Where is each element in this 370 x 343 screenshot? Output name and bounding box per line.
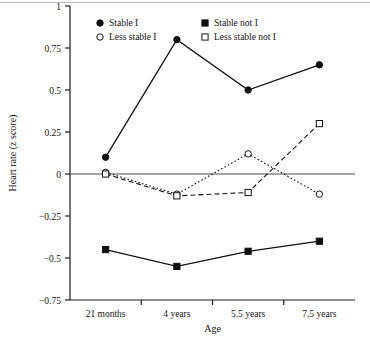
x-axis-title: Age — [204, 323, 221, 334]
x-tick-label: 7.5 years — [302, 309, 337, 319]
y-tick-label: −0.75 — [39, 296, 61, 306]
legend-stable-not-i-marker-filled-square — [202, 20, 208, 26]
series-less-stable-not-i-pt3-marker-open-square — [316, 121, 322, 127]
legend-label: Stable I — [109, 18, 138, 28]
y-tick-label: −0.5 — [44, 254, 61, 264]
legend-less-stable-i-marker-open-circle — [97, 34, 103, 40]
series-stable-not-i-pt0-marker-filled-square — [103, 247, 109, 253]
legend-less-stable-not-i-marker-open-square — [202, 34, 208, 40]
x-tick-label: 21 months — [86, 309, 126, 319]
series-line-stable-not-i — [106, 241, 320, 266]
y-tick-label: 0.75 — [44, 44, 61, 54]
y-tick-label: −0.25 — [39, 212, 61, 222]
series-stable-i-pt0-marker-filled-circle — [102, 154, 108, 160]
series-less-stable-i-pt2-marker-open-circle — [245, 151, 251, 157]
series-stable-not-i-pt1-marker-filled-square — [174, 263, 180, 269]
x-tick-label: 5.5 years — [231, 309, 266, 319]
legend-label: Less stable I — [109, 32, 157, 42]
y-tick-label: 0.5 — [49, 86, 61, 96]
series-stable-not-i-pt3-marker-filled-square — [316, 238, 322, 244]
figure-container: 10.750.50.250−0.25−0.5−0.7521 months4 ye… — [0, 0, 370, 343]
series-less-stable-not-i-pt1-marker-open-square — [174, 193, 180, 199]
heart-rate-line-chart: 10.750.50.250−0.25−0.5−0.7521 months4 ye… — [0, 0, 370, 343]
series-stable-not-i-pt2-marker-filled-square — [245, 248, 251, 254]
series-less-stable-i-pt3-marker-open-circle — [316, 191, 322, 197]
y-axis-title-text: Heart rate (z score) — [7, 115, 19, 192]
series-line-less-stable-not-i — [106, 124, 320, 196]
y-tick-label: 0 — [56, 170, 61, 180]
page-top-rule — [0, 2, 370, 3]
legend-label: Less stable not I — [214, 32, 276, 42]
y-axis-title: Heart rate (z score) — [7, 115, 19, 192]
series-line-stable-i — [106, 40, 320, 158]
x-tick-label: 4 years — [163, 309, 190, 319]
series-stable-i-pt2-marker-filled-circle — [245, 87, 251, 93]
series-stable-i-pt1-marker-filled-circle — [174, 36, 180, 42]
series-stable-i-pt3-marker-filled-circle — [316, 62, 322, 68]
series-less-stable-not-i-pt0-marker-open-square — [103, 171, 109, 177]
legend-label: Stable not I — [214, 18, 258, 28]
y-tick-label: 0.25 — [44, 128, 61, 138]
legend-stable-i-marker-filled-circle — [97, 20, 103, 26]
series-less-stable-not-i-pt2-marker-open-square — [245, 189, 251, 195]
y-tick-label: 1 — [56, 2, 61, 12]
